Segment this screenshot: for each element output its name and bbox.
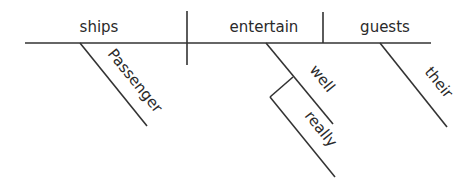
subject-modifier-word: Passenger: [104, 45, 167, 117]
verb-modifier-word: well: [306, 61, 339, 96]
subject-word: ships: [80, 18, 119, 36]
verb-word: entertain: [230, 18, 299, 36]
adverb-connector-line: [270, 77, 293, 97]
sentence-diagram: ships entertain guests Passenger well re…: [0, 0, 472, 189]
object-modifier-word: their: [421, 63, 458, 102]
object-word: guests: [360, 18, 410, 36]
adverb-modifier-word: really: [301, 107, 341, 151]
